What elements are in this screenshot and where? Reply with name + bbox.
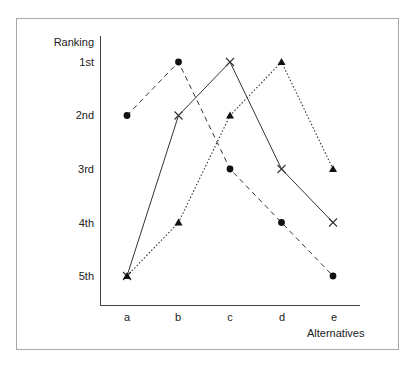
x-axis-title: Alternatives bbox=[307, 327, 364, 339]
circle-marker-c bbox=[227, 166, 234, 173]
y-tick-3rd: 3rd bbox=[34, 163, 94, 175]
y-tick-1st: 1st bbox=[34, 56, 94, 68]
x-tick-c: c bbox=[220, 311, 240, 323]
x-tick-a: a bbox=[117, 311, 137, 323]
x-marker-d bbox=[278, 165, 286, 173]
series-layer bbox=[123, 58, 337, 280]
x-tick-d: d bbox=[272, 311, 292, 323]
triangle-marker-e bbox=[329, 165, 337, 172]
circle-marker-a bbox=[124, 112, 131, 119]
circle-marker-e bbox=[330, 273, 337, 280]
y-axis-title: Ranking bbox=[34, 36, 94, 48]
circle-marker-d bbox=[278, 219, 285, 226]
circle-marker-b bbox=[175, 59, 182, 66]
triangle-marker-b bbox=[175, 219, 183, 226]
series-circle-dashed bbox=[124, 59, 337, 280]
y-tick-2nd: 2nd bbox=[34, 109, 94, 121]
y-tick-5th: 5th bbox=[34, 270, 94, 282]
x-marker-b bbox=[175, 112, 183, 120]
triangle-marker-d bbox=[278, 58, 286, 65]
x-marker-e bbox=[329, 219, 337, 227]
x-marker-c bbox=[226, 58, 234, 66]
x-tick-e: e bbox=[324, 311, 344, 323]
x-tick-b: b bbox=[168, 311, 188, 323]
y-tick-4th: 4th bbox=[34, 217, 94, 229]
